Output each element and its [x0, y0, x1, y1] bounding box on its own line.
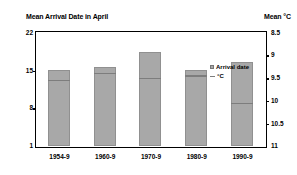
- x-axis-tick-label: 1954-9: [39, 153, 79, 160]
- legend-box-marker-icon: [210, 65, 214, 69]
- y-axis-tick-label: 1: [23, 142, 33, 149]
- bar: [139, 52, 161, 146]
- bar: [48, 70, 70, 146]
- plot-area: Arrival date °C: [35, 31, 267, 148]
- y2-axis-tick-label: 8.5: [271, 29, 280, 36]
- legend-item: °C: [210, 72, 249, 80]
- right-axis-title: Mean °C: [264, 13, 291, 20]
- temperature-marker: [231, 103, 253, 104]
- x-axis-tick-label: 1970-9: [131, 153, 171, 160]
- legend-item: Arrival date: [210, 63, 249, 71]
- bar: [185, 70, 207, 146]
- y-axis-tick-label: 8: [23, 104, 33, 111]
- temperature-marker: [185, 75, 207, 76]
- y-axis-tick-label: 15: [23, 67, 33, 74]
- chart-legend: Arrival date °C: [210, 63, 249, 81]
- y2-axis-tick-label: 9.5: [271, 74, 280, 81]
- temperature-marker: [94, 73, 116, 74]
- x-axis-tick-label: 1980-9: [177, 153, 217, 160]
- temperature-marker: [48, 80, 70, 81]
- legend-label: Arrival date: [216, 64, 249, 70]
- x-axis-tick-label: 1990-9: [223, 153, 263, 160]
- y2-axis-tick-label: 11: [271, 142, 278, 149]
- x-axis-tick-label: 1960-9: [85, 153, 125, 160]
- chart-root: Mean Arrival Date in April Mean °C 22158…: [0, 0, 297, 175]
- y2-axis-tick-label: 10: [271, 97, 278, 104]
- bar: [94, 67, 116, 146]
- temperature-marker: [139, 78, 161, 79]
- y2-axis-tick-label: 10.5: [271, 120, 284, 127]
- y-axis-tick-label: 22: [23, 29, 33, 36]
- left-axis-title: Mean Arrival Date in April: [26, 13, 108, 20]
- legend-label: °C: [217, 73, 224, 79]
- legend-line-marker-icon: [210, 76, 215, 77]
- y2-axis-tick-label: 9: [271, 51, 275, 58]
